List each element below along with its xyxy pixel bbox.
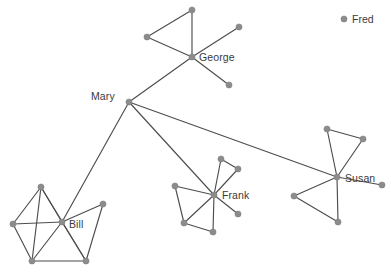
graph-edge: [32, 187, 41, 261]
graph-edge: [337, 177, 338, 222]
graph-node-susan[interactable]: [334, 174, 340, 180]
graph-node-fred[interactable]: [341, 16, 347, 22]
graph-node-frank[interactable]: [211, 192, 217, 198]
node-label-mary: Mary: [91, 91, 115, 102]
node-label-frank: Frank: [222, 190, 249, 201]
node-label-george: George: [199, 52, 235, 63]
graph-node[interactable]: [172, 183, 178, 189]
node-label-bill: Bill: [69, 219, 83, 230]
graph-node[interactable]: [324, 126, 330, 132]
graph-node[interactable]: [360, 136, 366, 142]
graph-edge: [147, 37, 192, 57]
graph-node[interactable]: [335, 219, 341, 225]
graph-node[interactable]: [144, 34, 150, 40]
graph-edge: [184, 223, 213, 232]
graph-edge: [13, 224, 32, 261]
graph-node[interactable]: [218, 156, 224, 162]
graph-node[interactable]: [181, 220, 187, 226]
graph-node[interactable]: [83, 258, 89, 264]
network-graph-svg: [0, 0, 391, 275]
graph-edge: [327, 129, 337, 177]
graph-node[interactable]: [379, 182, 385, 188]
graph-edge: [214, 159, 221, 195]
graph-edge: [86, 204, 103, 261]
graph-node[interactable]: [100, 201, 106, 207]
node-label-fred: Fred: [352, 14, 374, 25]
graph-node[interactable]: [10, 221, 16, 227]
graph-node[interactable]: [235, 166, 241, 172]
graph-edge: [147, 10, 192, 37]
graph-edge: [13, 222, 62, 224]
graph-node[interactable]: [236, 24, 242, 30]
graph-node[interactable]: [235, 211, 241, 217]
graph-node-george[interactable]: [189, 54, 195, 60]
graph-node[interactable]: [38, 184, 44, 190]
graph-edge: [175, 186, 184, 223]
graph-node[interactable]: [226, 82, 232, 88]
graph-edge: [327, 129, 363, 139]
graph-edge: [62, 102, 129, 222]
graph-edge: [175, 186, 214, 195]
graph-edge: [213, 195, 214, 232]
graph-node-mary[interactable]: [126, 99, 132, 105]
node-label-susan: Susan: [345, 173, 375, 184]
graph-node[interactable]: [291, 193, 297, 199]
graph-node[interactable]: [29, 258, 35, 264]
graph-node-bill[interactable]: [59, 219, 65, 225]
graph-edge: [129, 57, 192, 102]
network-graph-canvas: George Mary Bill Frank Susan Fred: [0, 0, 391, 275]
graph-node[interactable]: [189, 7, 195, 13]
graph-edge: [294, 196, 338, 222]
graph-edge: [129, 102, 214, 195]
graph-edge: [184, 195, 214, 223]
graph-edge: [294, 177, 337, 196]
graph-node[interactable]: [210, 229, 216, 235]
